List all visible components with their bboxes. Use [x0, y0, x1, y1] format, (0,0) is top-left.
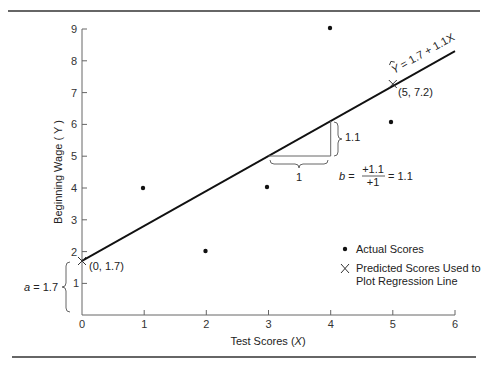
- svg-text:1: 1: [73, 277, 79, 289]
- dot-legend-icon: [343, 247, 347, 251]
- data-point: [328, 26, 332, 30]
- svg-text:0: 0: [79, 318, 85, 330]
- intercept-brace: [62, 262, 70, 312]
- data-point: [141, 186, 145, 190]
- slope-formula: b= +1.1 +1 = 1.1: [339, 163, 413, 188]
- point-5-label: (5, 7.2): [398, 86, 433, 98]
- svg-text:+1: +1: [367, 176, 380, 188]
- svg-text:4: 4: [328, 318, 334, 330]
- x-axis: [82, 310, 455, 315]
- svg-text:6: 6: [452, 318, 458, 330]
- svg-text:5: 5: [71, 150, 77, 162]
- y-axis: [82, 29, 87, 315]
- rise-label: 1.1: [345, 131, 360, 143]
- svg-text:3: 3: [265, 318, 271, 330]
- data-point: [203, 249, 207, 253]
- svg-text:8: 8: [71, 55, 77, 67]
- x-axis-title: Test Scores (X): [230, 335, 305, 347]
- legend: Actual Scores Predicted Scores Used to P…: [341, 243, 481, 287]
- svg-text:b=: b=: [339, 170, 355, 182]
- regression-chart: 9 8 7 6 5 4 3 2 1 0 1 2 3 4 5 6 Test Sco…: [0, 0, 484, 370]
- svg-text:1: 1: [141, 318, 147, 330]
- y-tick-labels: 9 8 7 6 5 4 3 2 1: [71, 23, 79, 289]
- run-brace: [270, 160, 328, 168]
- svg-text:7: 7: [71, 87, 77, 99]
- svg-text:6: 6: [71, 118, 77, 130]
- svg-text:5: 5: [390, 318, 396, 330]
- legend-predicted-line1: Predicted Scores Used to: [356, 262, 481, 274]
- x-tick-labels: 0 1 2 3 4 5 6: [79, 318, 458, 330]
- legend-actual: Actual Scores: [356, 243, 424, 255]
- svg-text:2: 2: [203, 318, 209, 330]
- svg-text:9: 9: [71, 23, 77, 35]
- intercept-label: a = 1.7: [24, 281, 58, 293]
- data-point: [389, 120, 393, 124]
- svg-text:3: 3: [71, 214, 77, 226]
- legend-predicted-line2: Plot Regression Line: [356, 275, 458, 287]
- svg-text:+1.1: +1.1: [362, 163, 384, 175]
- run-label: 1: [296, 171, 302, 183]
- origin-point-label: (0, 1.7): [89, 260, 124, 272]
- rise-brace: [334, 122, 342, 156]
- y-axis-title: Beginning Wage ( Y ): [52, 120, 64, 224]
- data-point: [265, 185, 269, 189]
- svg-text:4: 4: [71, 182, 77, 194]
- svg-text:2: 2: [71, 246, 77, 258]
- svg-text:= 1.1: = 1.1: [388, 170, 413, 182]
- x-legend-icon: [341, 264, 349, 273]
